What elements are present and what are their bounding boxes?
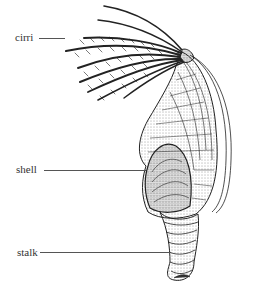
leader-line-cirri bbox=[39, 38, 65, 39]
label-stalk: stalk bbox=[17, 247, 38, 258]
leader-line-shell bbox=[44, 170, 146, 171]
barnacle-diagram: cirri shell stalk bbox=[0, 0, 263, 284]
leader-line-stalk bbox=[40, 252, 170, 253]
label-cirri: cirri bbox=[15, 32, 33, 43]
barnacle-illustration bbox=[0, 0, 263, 284]
label-shell: shell bbox=[16, 164, 37, 175]
cirri-group bbox=[66, 6, 184, 100]
stalk-group bbox=[160, 212, 199, 280]
shell-group bbox=[139, 49, 231, 218]
